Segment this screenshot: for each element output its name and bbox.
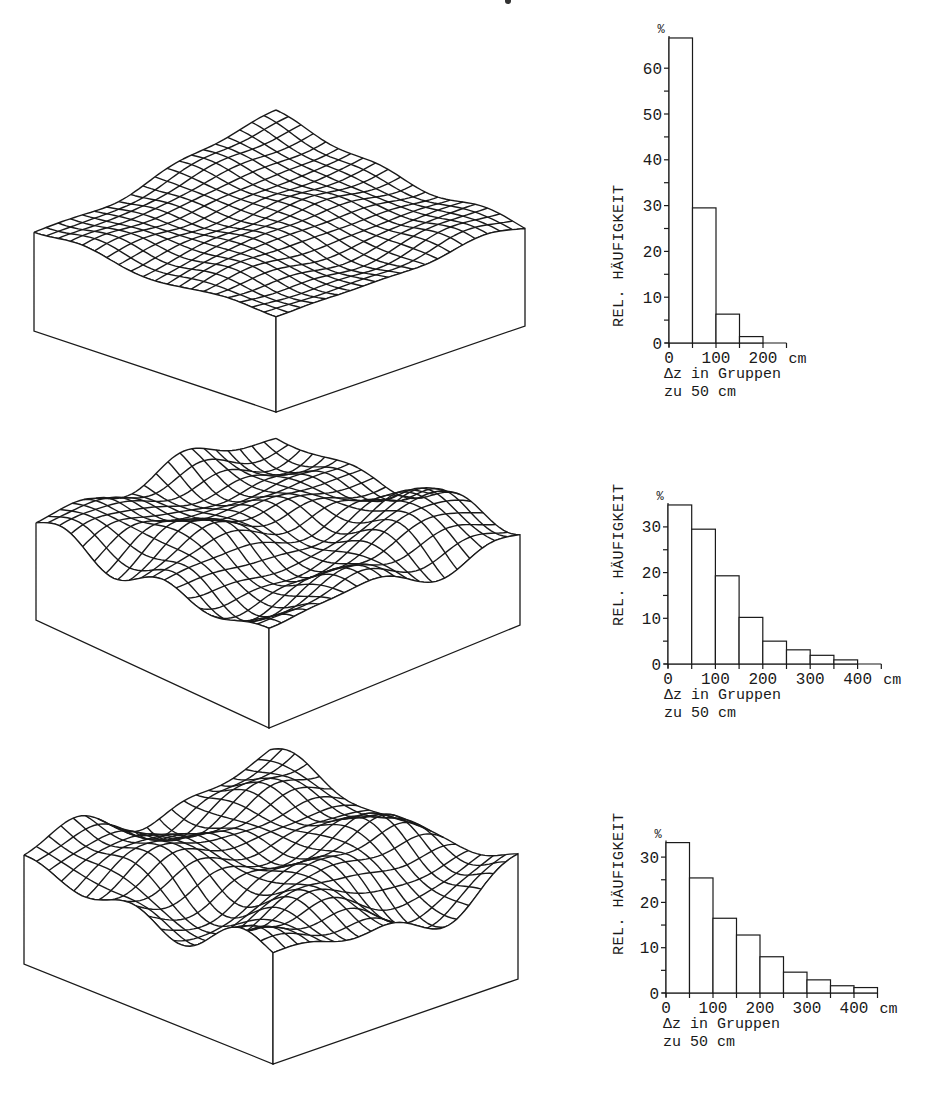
x-axis-label-3: Δz in Gruppen zu 50 cm <box>663 1016 780 1052</box>
histogram-bar <box>831 986 855 993</box>
y-tick-label: 30 <box>640 850 659 868</box>
y-axis-label-3: REL. HÄUFIGKEIT <box>611 812 628 955</box>
histogram-bar <box>666 843 690 993</box>
histogram-bar <box>784 972 808 993</box>
histogram-bar <box>713 918 737 993</box>
x-tick-label: 300 <box>793 1000 822 1018</box>
x-tick-label: 400 <box>840 1000 869 1018</box>
histogram-bar <box>807 980 831 993</box>
y-tick-label: 10 <box>640 940 659 958</box>
x-axis-label-line2: zu 50 cm <box>663 1034 735 1051</box>
x-axis-label-line1: Δz in Gruppen <box>663 1016 780 1033</box>
histogram-bar <box>690 878 714 993</box>
histogram-bar <box>737 935 761 993</box>
histogram-bar <box>760 957 784 993</box>
percent-unit-label: % <box>654 828 662 842</box>
y-tick-label: 20 <box>640 895 659 913</box>
histogram-bar <box>854 988 878 993</box>
histogram-plot: 0102030%0100200300400cm <box>0 0 935 1099</box>
x-unit-label: cm <box>880 1001 898 1018</box>
y-tick-label: 0 <box>649 986 659 1004</box>
